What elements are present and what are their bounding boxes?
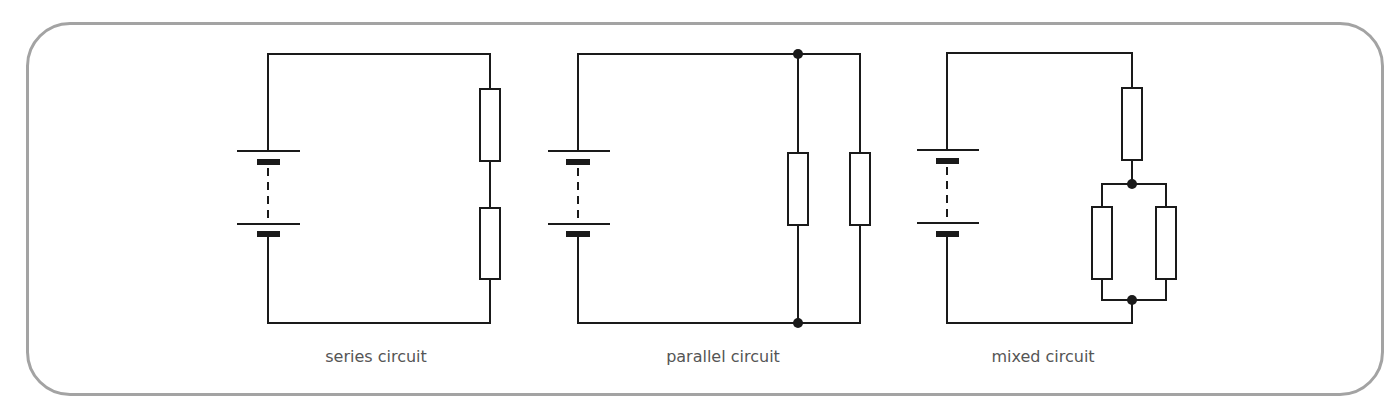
resistor-icon (850, 153, 870, 225)
mixed-circuit (917, 53, 1176, 323)
series-wires (268, 54, 490, 323)
junction-dot-icon (793, 318, 803, 328)
resistor-icon (1122, 88, 1142, 160)
resistor-icon (480, 208, 500, 279)
battery-icon (237, 151, 300, 237)
resistor-icon (1092, 207, 1112, 279)
series-circuit-label: series circuit (325, 345, 427, 369)
resistor-icon (480, 89, 500, 161)
junction-dot-icon (793, 49, 803, 59)
junction-dot-icon (1127, 179, 1137, 189)
resistor-icon (1156, 207, 1176, 279)
parallel-circuit-label: parallel circuit (666, 345, 780, 369)
junction-dot-icon (1127, 295, 1137, 305)
battery-icon (548, 151, 610, 237)
parallel-circuit (548, 49, 870, 328)
battery-icon (917, 150, 979, 237)
resistor-icon (788, 153, 808, 225)
mixed-circuit-label: mixed circuit (991, 345, 1094, 369)
parallel-wires (578, 54, 860, 323)
series-circuit (237, 54, 500, 323)
